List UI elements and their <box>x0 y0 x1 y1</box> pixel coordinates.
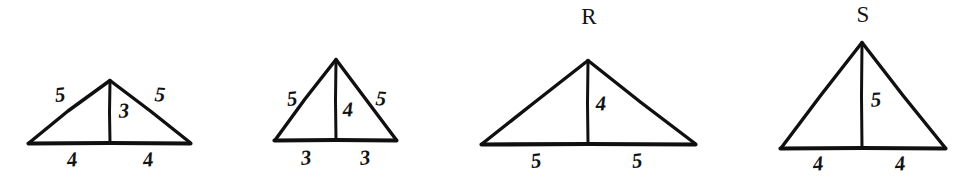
triangle-4-left-leg <box>782 43 863 148</box>
triangle-3-altitude-label: 4 <box>595 93 607 115</box>
triangle-1-base-right-label: 4 <box>142 149 155 171</box>
triangle-4-base-left-label: 4 <box>812 153 825 175</box>
triangle-1-left-leg <box>30 81 111 143</box>
triangle-2-left-leg <box>276 60 337 140</box>
triangle-4-base-right-label: 4 <box>894 153 907 175</box>
triangle-2-base-right-label: 3 <box>359 147 372 169</box>
triangle-3-shape <box>482 61 696 145</box>
triangle-2-right-leg-label: 5 <box>375 88 387 110</box>
triangle-3-altitude <box>588 62 589 145</box>
triangle-2-altitude <box>336 61 337 141</box>
triangle-4-shape <box>781 43 946 149</box>
triangle-2-altitude-label: 4 <box>342 99 354 121</box>
triangle-1-altitude <box>110 82 111 144</box>
triangle-3-base-right-label: 5 <box>631 150 644 172</box>
triangle-4-altitude-label: 5 <box>870 89 882 111</box>
triangle-2-base-left-label: 3 <box>300 147 313 169</box>
triangle-3-base-left-label: 5 <box>530 150 543 172</box>
triangle-1-left-leg-label: 5 <box>54 84 67 106</box>
triangle-4-name-label: S <box>857 3 870 26</box>
triangle-4-altitude <box>862 44 863 149</box>
triangle-2-left-leg-label: 5 <box>286 88 299 110</box>
triangle-3-left-leg <box>483 61 589 144</box>
triangle-1-shape <box>29 81 191 144</box>
triangle-3-name-label: R <box>581 5 596 28</box>
triangle-1-altitude-label: 3 <box>118 100 130 122</box>
triangles-figure: 5 5 3 4 4 5 5 4 3 3 R 4 5 5 S 5 4 4 <box>0 0 975 176</box>
triangle-1-right-leg-label: 5 <box>154 84 166 106</box>
triangle-1-base-left-label: 4 <box>66 149 79 171</box>
